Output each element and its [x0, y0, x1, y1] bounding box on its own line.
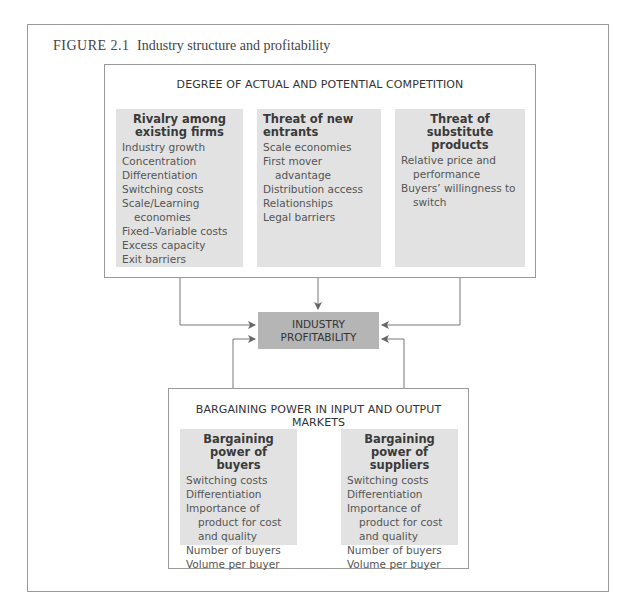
list-item: Number of buyers [347, 543, 452, 557]
list-item: Switching costs [186, 473, 291, 487]
list-item: Differentiation [347, 487, 452, 501]
list-item: Distribution access [263, 182, 375, 196]
list-item: Importance of product for cost and quali… [186, 501, 291, 543]
list-item: Industry growth [122, 140, 237, 154]
column-heading: Bargaining power of buyers [186, 433, 291, 472]
column-heading: Threat of substitute products [401, 113, 519, 152]
list-item: Scale/Learning economies [122, 196, 237, 224]
list-item: Importance of product for cost and quali… [347, 501, 452, 543]
column-heading: Threat of new entrants [263, 113, 375, 139]
competition-box: DEGREE OF ACTUAL AND POTENTIAL COMPETITI… [104, 64, 536, 278]
list-item: Buyers’ willingness to switch [401, 181, 519, 209]
list-item: Exit barriers [122, 252, 237, 266]
suppliers-column: Bargaining power of suppliers Switching … [341, 429, 458, 545]
column-heading: Rivalry among existing firms [122, 113, 237, 139]
list-item: Relative price and performance [401, 153, 519, 181]
list-item: Scale economies [263, 140, 375, 154]
bargaining-power-box: BARGAINING POWER IN INPUT AND OUTPUT MAR… [168, 388, 469, 569]
list-item: Legal barriers [263, 210, 375, 224]
list-item: Number of buyers [186, 543, 291, 557]
industry-profitability-box: INDUSTRY PROFITABILITY [258, 312, 379, 349]
list-item: Switching costs [347, 473, 452, 487]
rivalry-column: Rivalry among existing firms Industry gr… [116, 109, 243, 267]
substitutes-column: Threat of substitute products Relative p… [395, 109, 525, 267]
competition-box-title: DEGREE OF ACTUAL AND POTENTIAL COMPETITI… [105, 78, 535, 91]
profitability-line-1: INDUSTRY [292, 318, 345, 331]
buyers-column: Bargaining power of buyers Switching cos… [180, 429, 297, 545]
list-item: First mover advantage [263, 154, 375, 182]
list-item: Differentiation [186, 487, 291, 501]
list-item: Volume per buyer [347, 557, 452, 571]
list-item: Fixed–Variable costs [122, 224, 237, 238]
new-entrants-column: Threat of new entrants Scale economies F… [257, 109, 381, 267]
column-heading: Bargaining power of suppliers [347, 433, 452, 472]
profitability-line-2: PROFITABILITY [281, 331, 357, 344]
list-item: Differentiation [122, 168, 237, 182]
list-item: Relationships [263, 196, 375, 210]
bargaining-box-title: BARGAINING POWER IN INPUT AND OUTPUT MAR… [169, 403, 468, 429]
list-item: Switching costs [122, 182, 237, 196]
list-item: Volume per buyer [186, 557, 291, 571]
list-item: Concentration [122, 154, 237, 168]
list-item: Excess capacity [122, 238, 237, 252]
